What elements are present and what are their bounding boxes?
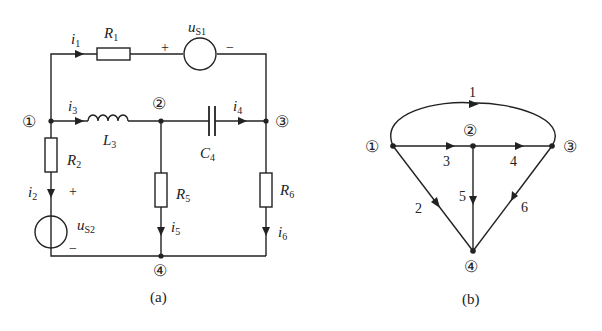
arrow-i5-icon [157, 227, 165, 236]
wire-bottom [51, 248, 266, 256]
branch-label-5: 5 [459, 189, 466, 204]
arrow-branch-5-icon [469, 196, 477, 205]
label-r1: R1 [103, 25, 118, 43]
label-i6: i6 [278, 224, 287, 242]
label-us2-plus: + [69, 184, 77, 199]
branch-label-4: 4 [510, 154, 517, 169]
node-label-3: ③ [275, 113, 289, 130]
graph-node-label-4: ④ [464, 258, 478, 275]
branch-label-3: 3 [443, 154, 450, 169]
label-l3: L3 [102, 132, 116, 150]
junction-node-1 [48, 118, 53, 123]
graph-node-4 [470, 248, 476, 254]
label-us2-minus: − [69, 241, 77, 256]
node-label-4: ④ [153, 262, 167, 279]
graph-node-3 [549, 143, 555, 149]
node-label-1: ① [22, 113, 36, 130]
label-us1: uS1 [188, 19, 206, 37]
label-i4: i4 [233, 98, 242, 116]
arrow-branch-1-icon [469, 100, 479, 108]
circuit-figure: i1 R1 uS1 + − i3 L3 i4 C4 R2 i2 + uS2 − … [0, 0, 602, 331]
resistor-r1 [97, 48, 130, 60]
circuit-a: i1 R1 uS1 + − i3 L3 i4 C4 R2 i2 + uS2 − … [22, 19, 294, 306]
graph-node-label-1: ① [365, 138, 379, 155]
arrow-i4-icon [238, 117, 247, 125]
junction-node-2 [158, 118, 163, 123]
junction-node-4 [158, 253, 163, 258]
graph-b: ① ② ③ ④ 1 2 3 4 5 6 (b) [365, 85, 577, 308]
label-i5: i5 [171, 219, 180, 237]
label-i3: i3 [68, 98, 77, 116]
resistor-r2 [45, 138, 57, 172]
arrow-i3-icon [75, 117, 84, 125]
junction-node-3 [263, 118, 268, 123]
arrow-i6-icon [262, 227, 270, 236]
arrow-i2-icon [47, 189, 55, 198]
graph-node-1 [390, 143, 396, 149]
graph-node-label-2: ② [463, 122, 477, 139]
voltage-source-us1 [184, 38, 216, 70]
caption-b: (b) [462, 291, 480, 308]
branch-label-2: 2 [415, 201, 422, 216]
label-r2: R2 [66, 152, 81, 170]
inductor-l3 [88, 115, 128, 121]
graph-node-2 [470, 143, 476, 149]
graph-node-label-3: ③ [563, 138, 577, 155]
label-us1-minus: − [226, 40, 234, 55]
label-i2: i2 [28, 184, 37, 202]
wire-top-right [217, 54, 266, 256]
arrow-branch-3-icon [446, 142, 455, 150]
label-r6: R6 [279, 182, 294, 200]
caption-a: (a) [150, 289, 167, 306]
capacitor-c4 [209, 106, 215, 136]
branch-label-1: 1 [469, 85, 476, 100]
branch-label-6: 6 [521, 200, 528, 215]
resistor-r5 [155, 173, 167, 207]
arrow-i1-icon [75, 50, 84, 58]
label-i1: i1 [71, 31, 80, 49]
label-us1-plus: + [161, 40, 169, 55]
arrow-branch-4-icon [515, 142, 524, 150]
resistor-r6 [260, 173, 272, 207]
label-c4: C4 [200, 145, 215, 163]
label-r5: R5 [175, 186, 190, 204]
node-label-2: ② [152, 95, 166, 112]
label-us2: uS2 [77, 217, 95, 235]
